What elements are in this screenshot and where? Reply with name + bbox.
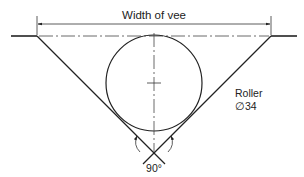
vee-flank-left (37, 36, 165, 164)
width-label: Width of vee (122, 9, 186, 21)
roller (106, 33, 202, 152)
vee-block-diagram: Width of vee Roller ∅34 90° (0, 0, 304, 177)
angle-label: 90° (146, 162, 162, 174)
roller-label: Roller (235, 87, 263, 99)
width-dimension: Width of vee (37, 9, 271, 35)
roller-diameter-label: ∅34 (235, 100, 257, 112)
angle-indicator: 90° (136, 136, 173, 174)
